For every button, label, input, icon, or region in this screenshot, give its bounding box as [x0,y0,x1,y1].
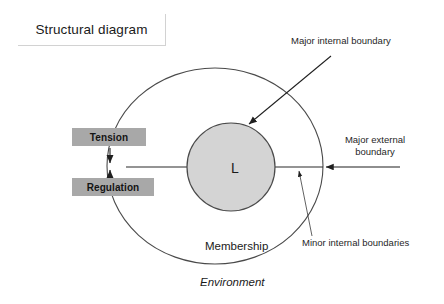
regulation-box: Regulation [72,178,154,196]
page-title: Structural diagram [35,22,147,37]
diagram-title-chip: Structural diagram [18,14,166,46]
environment-label: Environment [200,276,265,288]
core-label: L [231,160,239,176]
membership-label: Membership [205,240,268,252]
minor-internal-boundaries-label: Minor internal boundaries [302,237,409,249]
tension-box: Tension [72,128,146,146]
major-external-boundary-label: Major external boundary [339,134,411,158]
major-internal-boundary-label: Major internal boundary [291,35,391,47]
regulation-box-label: Regulation [87,182,140,193]
tension-box-label: Tension [90,132,128,143]
diagram-canvas: Structural diagram Tension Regulation L … [0,0,444,304]
